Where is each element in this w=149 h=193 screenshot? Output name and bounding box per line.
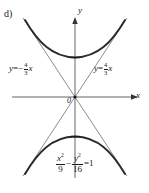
panel-letter: d): [4, 8, 12, 19]
equation-term1-denominator: 9: [56, 165, 65, 175]
equation-rhs: 1: [89, 158, 94, 168]
asymptote-left-variable: x: [28, 63, 32, 73]
asymptote-left-sign: −: [18, 63, 23, 73]
origin-dot: [73, 95, 76, 98]
equation-term1-exponent: 2: [61, 152, 64, 158]
bottom-clipped-text-strip: [0, 189, 149, 193]
origin-label: 0: [67, 97, 71, 105]
equation-term-2: y216: [72, 154, 83, 174]
axis-x-label: x: [136, 91, 140, 100]
axis-y-label: y: [78, 6, 82, 15]
equation-term2-exponent: 2: [78, 152, 81, 158]
asymptote-right-label: y=43x: [94, 62, 112, 76]
hyperbola-equation-label: x29−y216=1: [55, 154, 93, 174]
hyperbola-figure: d) y x 0 y=−43x y=43x x29−y216=1: [0, 0, 149, 193]
asymptote-right-equals: =: [98, 63, 103, 73]
equation-term-1: x29: [56, 154, 65, 174]
asymptote-right-variable: x: [108, 63, 112, 73]
equation-operator: −: [66, 158, 71, 168]
equation-term2-denominator: 16: [72, 165, 83, 175]
asymptote-left-label: y=−43x: [9, 62, 32, 76]
